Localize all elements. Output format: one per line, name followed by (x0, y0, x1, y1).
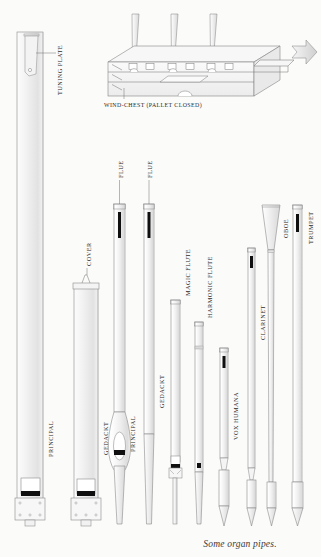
pipe-foot-stem (173, 478, 177, 524)
pipe-label-principal-large: PRINCIPAL (47, 421, 54, 457)
pipe-label-clarinet: CLARINET (259, 305, 266, 340)
reed-boot (267, 482, 276, 508)
windchest-label: WIND-CHEST (PALLET CLOSED) (104, 102, 202, 109)
pipe-mouth-bar (77, 491, 95, 496)
callout-cover: COVER (85, 242, 92, 266)
figure-caption: Some organ pipes. (203, 539, 277, 549)
callout-flue-2: FLUE (146, 160, 153, 178)
pipe-label-gedackt-metal: GEDACKT (158, 375, 165, 408)
pipe-toe (81, 520, 91, 526)
pipe-mouth-bar (114, 450, 125, 455)
pipe-label-trumpet: TRUMPET (307, 211, 314, 244)
pipe-mouth-bar (171, 464, 180, 468)
pipe-label-gedackt-large: GEDACKT (102, 422, 109, 455)
reed-boot (292, 482, 303, 508)
harmonic-node (195, 346, 203, 349)
pipe-label-principal-metal: PRINCIPAL (129, 416, 136, 452)
pipe-mouth-bar (21, 491, 40, 496)
gedackt-cover (73, 283, 99, 289)
pipe-label-magic-flute: MAGIC FLUTE (184, 249, 191, 296)
pipe-foot-block (15, 498, 45, 520)
callout-flue-1: FLUE (117, 160, 124, 178)
flue-slot (148, 212, 151, 238)
flue-slot (118, 212, 121, 238)
reed-boot (247, 480, 256, 508)
reed-slot (250, 256, 253, 268)
pipe-label-harmonic-flute: HARMONIC FLUTE (206, 256, 213, 318)
windchest-slider-tongue (254, 60, 294, 66)
callout-tuning-plate: TUNING PLATE (56, 45, 63, 95)
pipe-toe (25, 520, 35, 526)
windchest-top-face (108, 46, 280, 62)
reed-slot (223, 356, 226, 368)
pipe-label-oboe: OBOE (282, 219, 289, 238)
organ-pipes-figure: WIND-CHEST (PALLET CLOSED) TUNING PLATE … (0, 0, 321, 557)
pipe-mouth (114, 432, 126, 460)
pipe-mouth-bar (197, 463, 201, 468)
pipe-label-vox-humana: VOX HUMANA (232, 392, 239, 440)
reed-boot (219, 470, 229, 506)
pipe-foot-block (169, 468, 182, 478)
reed-slot (296, 214, 299, 232)
pipe-foot-block (71, 498, 101, 520)
